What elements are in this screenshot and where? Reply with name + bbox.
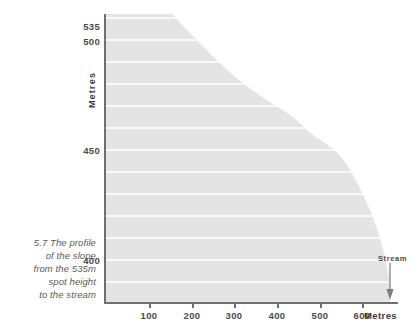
figure-container: 5.7 The profile of the slope from the 53… <box>0 0 418 324</box>
stream-arrow-icon <box>0 0 418 324</box>
